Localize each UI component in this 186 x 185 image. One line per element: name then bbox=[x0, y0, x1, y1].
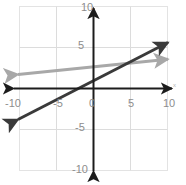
x-tick-label-5: 5 bbox=[128, 98, 134, 109]
y-tick-label-10: 10 bbox=[81, 2, 93, 13]
x-tick-label-10: 10 bbox=[163, 98, 175, 109]
coordinate-graph: 10 5 -5 -10 -10 -5 0 5 10 x bbox=[0, 0, 186, 185]
x-tick-label-0: 0 bbox=[89, 98, 95, 109]
y-tick-label-neg5: -5 bbox=[75, 122, 85, 133]
y-tick-label-5: 5 bbox=[78, 40, 84, 51]
x-tick-label-neg10: -10 bbox=[5, 98, 21, 109]
x-tick-label-neg5: -5 bbox=[53, 98, 63, 109]
x-axis-name-label: x bbox=[173, 82, 176, 88]
y-tick-label-neg10: -10 bbox=[72, 164, 88, 175]
graph-canvas bbox=[0, 0, 186, 185]
